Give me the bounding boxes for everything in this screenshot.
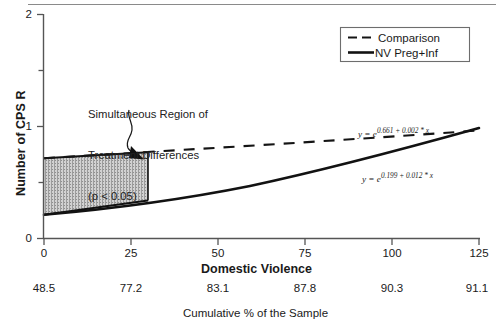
legend-item-nv-preg-inf[interactable]: NV Preg+Inf (375, 46, 438, 60)
x-tick-label-50: 50 (188, 246, 248, 260)
nv-equation-base: y = e (362, 174, 381, 184)
x-axis-ticks (44, 239, 479, 246)
x-axis-title-text: Domestic Violence (201, 262, 312, 277)
secondary-axis-title: Cumulative % of the Sample (0, 306, 499, 320)
secondary-tick-label-1: 77.2 (101, 281, 161, 295)
secondary-axis-title-text: Cumulative % of the Sample (183, 306, 328, 320)
simultaneous-region-annotation: Simultaneous Region of Treatment Differe… (88, 80, 208, 232)
x-tick-label-125: 125 (449, 246, 499, 260)
x-tick-label-25: 25 (101, 246, 161, 260)
comparison-equation-exponent: 0.661 + 0.002 * x (377, 126, 429, 135)
nv-equation-annotation: y = e0.199 + 0.012 * x (362, 172, 433, 185)
secondary-tick-label-3: 87.8 (275, 281, 335, 295)
secondary-tick-label-2: 83.1 (188, 281, 248, 295)
secondary-tick-label-5: 91.1 (447, 281, 499, 295)
x-tick-label-100: 100 (362, 246, 422, 260)
annotation-line-1: Simultaneous Region of (88, 108, 208, 122)
secondary-tick-label-4: 90.3 (362, 281, 422, 295)
secondary-tick-label-0: 48.5 (14, 281, 74, 295)
nv-equation-exponent: 0.199 + 0.012 * x (381, 171, 433, 180)
annotation-line-3: (p < 0.05) (88, 190, 208, 204)
annotation-line-2: Treatment Differences (88, 149, 208, 163)
figure-chart: Number of CPS R 2 1 0 0 25 50 75 100 125… (0, 0, 499, 333)
y-tick-label-1: 1 (6, 119, 32, 133)
x-tick-label-0: 0 (14, 246, 74, 260)
x-axis-title: Domestic Violence (0, 262, 499, 277)
y-tick-label-2: 2 (6, 7, 32, 21)
y-axis-title: Number of CPS R (14, 90, 29, 196)
comparison-equation-annotation: y = e0.661 + 0.002 * x (358, 127, 429, 140)
y-tick-label-0: 0 (6, 231, 32, 245)
comparison-equation-base: y = e (358, 129, 377, 139)
y-axis-ticks (37, 15, 43, 239)
legend-item-comparison[interactable]: Comparison (378, 31, 440, 45)
x-tick-label-75: 75 (275, 246, 335, 260)
